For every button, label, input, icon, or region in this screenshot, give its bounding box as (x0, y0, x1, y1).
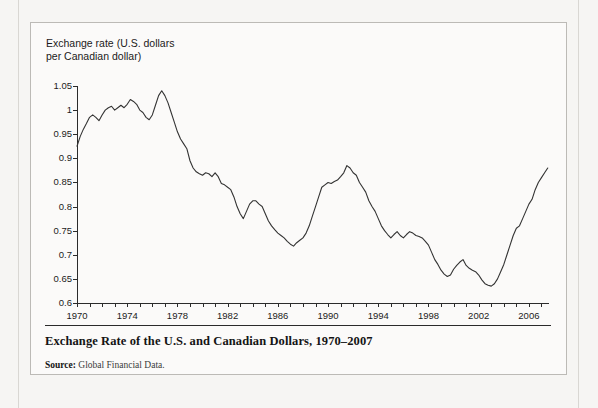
x-tick (479, 303, 480, 307)
x-tick (127, 303, 128, 307)
y-tick-label: 0.9 (59, 152, 72, 163)
x-tick (516, 303, 517, 307)
x-tick-label: 2002 (468, 310, 489, 321)
x-tick (541, 303, 542, 307)
figure-box: Exchange rate (U.S. dollars per Canadian… (30, 22, 567, 375)
x-tick-label: 1990 (317, 310, 338, 321)
x-tick (228, 303, 229, 307)
x-tick (316, 303, 317, 307)
x-tick (428, 303, 429, 307)
x-tick (290, 303, 291, 307)
x-tick (203, 303, 204, 307)
x-tick (353, 303, 354, 307)
x-tick (504, 303, 505, 307)
x-tick-label: 1998 (418, 310, 439, 321)
x-tick (265, 303, 266, 307)
page-border-right (578, 0, 579, 408)
x-tick (378, 303, 379, 307)
figure-caption-title: Exchange Rate of the U.S. and Canadian D… (45, 334, 545, 349)
x-tick (165, 303, 166, 307)
chart-area: Exchange rate (U.S. dollars per Canadian… (31, 23, 566, 323)
y-tick-label: 0.65 (54, 273, 73, 284)
x-tick (115, 303, 116, 307)
x-tick (215, 303, 216, 307)
y-axis-title: Exchange rate (U.S. dollars per Canadian… (46, 37, 174, 63)
x-tick (441, 303, 442, 307)
scanned-page: Exchange rate (U.S. dollars per Canadian… (0, 0, 598, 408)
x-tick (341, 303, 342, 307)
source-text: Global Financial Data. (76, 360, 165, 370)
y-tick-label: 0.95 (54, 128, 73, 139)
y-tick-label: 0.7 (59, 249, 72, 260)
x-tick (391, 303, 392, 307)
plot-area: 0.60.650.70.750.80.850.90.9511.05 197019… (77, 86, 549, 303)
x-tick (303, 303, 304, 307)
figure-source-line: Source: Global Financial Data. (45, 360, 545, 370)
exchange-rate-line-series (77, 86, 549, 303)
x-tick (152, 303, 153, 307)
x-tick (403, 303, 404, 307)
x-tick (90, 303, 91, 307)
y-tick-label: 0.8 (59, 201, 72, 212)
y-tick-label: 0.75 (54, 225, 73, 236)
x-tick (190, 303, 191, 307)
x-tick (328, 303, 329, 307)
x-tick-label: 1982 (217, 310, 238, 321)
x-tick (366, 303, 367, 307)
page-border-left (18, 0, 19, 408)
x-tick-label: 1970 (66, 310, 87, 321)
x-tick (466, 303, 467, 307)
x-tick (416, 303, 417, 307)
caption-divider (45, 325, 551, 326)
x-tick-label: 1986 (267, 310, 288, 321)
x-tick (140, 303, 141, 307)
x-tick (177, 303, 178, 307)
x-tick (529, 303, 530, 307)
y-tick-label: 0.85 (54, 176, 73, 187)
x-tick (454, 303, 455, 307)
x-tick-label: 1974 (117, 310, 138, 321)
x-tick (253, 303, 254, 307)
x-tick (491, 303, 492, 307)
y-tick-label: 1.05 (54, 80, 73, 91)
y-tick-label: 0.6 (59, 297, 72, 308)
x-tick-label: 1978 (167, 310, 188, 321)
x-tick (102, 303, 103, 307)
x-tick (240, 303, 241, 307)
x-tick (278, 303, 279, 307)
source-label: Source: (45, 360, 76, 370)
x-tick-label: 1994 (368, 310, 389, 321)
y-tick-label: 1 (67, 104, 72, 115)
x-tick (77, 303, 78, 307)
x-tick-label: 2006 (518, 310, 539, 321)
